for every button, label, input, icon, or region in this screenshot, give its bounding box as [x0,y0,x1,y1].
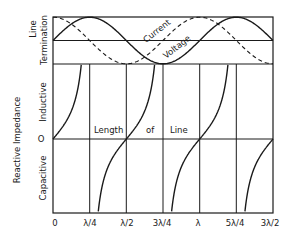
x-title-length: Length [94,125,123,135]
x-tick-3: 3λ/4 [153,218,172,228]
inductive-label: Inductive [38,82,48,121]
x-title-line: Line [170,125,188,135]
x-tick-labels: 0 λ/4 λ/2 3λ/4 λ 5λ/4 3λ/2 [52,218,279,228]
x-tick-5: 5λ/4 [226,218,245,228]
line-label: Line [28,20,38,38]
x-tick-1: λ/4 [83,218,96,228]
transmission-line-diagram: Current Voltage Line Termination Reactiv… [0,0,296,240]
reactive-impedance-axis-title: Reactive Impedance [12,97,22,184]
x-tick-4: λ [195,218,200,228]
x-title-of: of [146,125,155,135]
x-tick-0: 0 [52,218,57,228]
voltage-label: Voltage [161,33,192,61]
x-tick-2: λ/2 [120,218,133,228]
termination-label: Termination [39,15,49,66]
zero-label: O [38,134,45,144]
x-tick-6: 3λ/2 [261,218,280,228]
capacitive-label: Capacitive [38,156,48,201]
